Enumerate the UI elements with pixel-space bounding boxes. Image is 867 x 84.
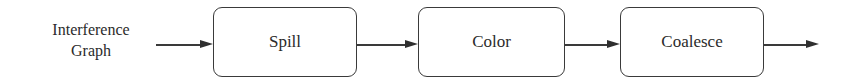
node-color-label: Color: [472, 32, 511, 52]
node-spill-label: Spill: [269, 32, 301, 52]
arrowhead-icon: [607, 40, 620, 48]
node-color: Color: [418, 7, 565, 77]
arrow-line: [156, 44, 204, 46]
node-coalesce-label: Coalesce: [661, 32, 722, 52]
register-allocation-pipeline-diagram: Interference Graph Spill Color Coalesce: [0, 0, 867, 84]
arrow-color-to-coalesce: [565, 44, 620, 46]
arrowhead-icon: [806, 40, 819, 48]
arrowhead-icon: [200, 40, 213, 48]
node-coalesce: Coalesce: [620, 7, 764, 77]
arrowhead-icon: [405, 40, 418, 48]
node-spill: Spill: [213, 7, 357, 77]
arrow-line: [764, 44, 810, 46]
arrow-spill-to-color: [357, 44, 418, 46]
arrow-line: [357, 44, 409, 46]
arrow-line: [565, 44, 611, 46]
input-label-interference-graph: Interference Graph: [36, 19, 146, 61]
arrow-coalesce-to-output: [764, 44, 819, 46]
arrow-input-to-spill: [156, 44, 213, 46]
input-label-line1: Interference: [36, 19, 146, 40]
input-label-line2: Graph: [36, 40, 146, 61]
